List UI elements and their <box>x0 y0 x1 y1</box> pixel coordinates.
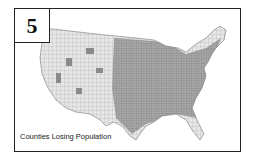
panel-number: 5 <box>27 15 38 37</box>
us-county-map <box>36 18 236 148</box>
map-caption: Counties Losing Population <box>20 132 111 141</box>
panel-number-box: 5 <box>14 8 50 43</box>
